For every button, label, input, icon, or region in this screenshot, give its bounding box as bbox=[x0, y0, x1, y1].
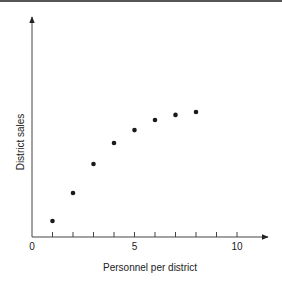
x-tick-label-5: 5 bbox=[132, 241, 138, 252]
y-axis-label: District sales bbox=[15, 114, 26, 171]
x-axis-label: Personnel per district bbox=[103, 262, 197, 273]
data-point bbox=[112, 141, 117, 146]
data-points bbox=[50, 110, 198, 224]
data-point bbox=[194, 110, 199, 115]
data-point bbox=[153, 118, 158, 123]
data-point bbox=[132, 128, 137, 133]
data-point bbox=[71, 191, 76, 196]
data-point bbox=[91, 162, 96, 167]
x-axis-ticks bbox=[53, 232, 238, 237]
data-point bbox=[50, 219, 55, 224]
x-tick-label-0: 0 bbox=[29, 241, 35, 252]
x-tick-label-10: 10 bbox=[231, 241, 242, 252]
data-point bbox=[173, 113, 178, 118]
